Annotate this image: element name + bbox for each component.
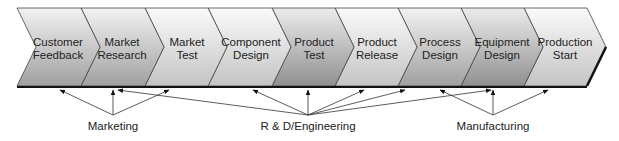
stage-label-product-release: ProductRelease [345,36,409,62]
stage-label-customer-feedback: CustomerFeedback [26,36,90,62]
stage-label-equipment-design: EquipmentDesign [470,36,534,62]
stage-label-market-research: MarketResearch [90,36,154,62]
stage-label-market-test: MarketTest [155,36,219,62]
manufacturing-arrows [440,90,548,115]
group-label-rnd-engineering: R & D/Engineering [248,120,368,132]
stage-label-production-start: ProductionStart [533,36,597,62]
rnd-arrows [118,90,491,115]
group-label-manufacturing: Manufacturing [448,120,538,132]
stage-label-product-test: ProductTest [282,36,346,62]
group-label-marketing: Marketing [78,120,148,132]
marketing-arrows [60,90,169,115]
stage-label-component-design: ComponentDesign [219,36,283,62]
stage-label-process-design: ProcessDesign [408,36,472,62]
